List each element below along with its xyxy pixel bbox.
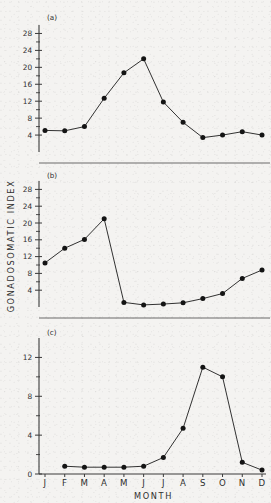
x-axis-title: MONTH xyxy=(134,491,173,501)
data-point-a-10 xyxy=(240,129,245,134)
y-tick-label-c-0: 0 xyxy=(28,470,33,479)
data-point-c-0 xyxy=(62,464,67,469)
figure-gonadosomatic-index: 481216202428(a)481216202428(b)04812JFMAM… xyxy=(0,0,271,503)
data-point-c-9 xyxy=(240,460,245,465)
data-point-a-1 xyxy=(62,128,67,133)
x-tick-label-0: J xyxy=(43,478,47,488)
data-point-c-6 xyxy=(181,426,186,431)
data-point-c-5 xyxy=(161,455,166,460)
x-tick-label-6: J xyxy=(161,478,165,488)
y-tick-label-a-12: 12 xyxy=(23,97,33,106)
data-point-a-4 xyxy=(121,70,126,75)
data-point-b-2 xyxy=(82,237,87,242)
panel-b: 481216202428(b) xyxy=(23,171,270,318)
data-point-b-3 xyxy=(102,216,107,221)
y-tick-label-b-24: 24 xyxy=(23,202,33,211)
data-point-a-3 xyxy=(102,96,107,101)
x-tick-label-2: M xyxy=(81,478,89,488)
data-point-b-0 xyxy=(43,260,48,265)
data-point-b-1 xyxy=(62,246,67,251)
y-tick-label-a-28: 28 xyxy=(23,29,33,38)
y-tick-label-b-16: 16 xyxy=(23,235,33,244)
x-tick-label-4: M xyxy=(120,478,128,488)
x-tick-label-10: N xyxy=(239,478,246,488)
data-line-c xyxy=(65,367,262,470)
x-tick-label-3: A xyxy=(101,478,107,488)
y-tick-label-b-8: 8 xyxy=(28,269,33,278)
data-point-a-9 xyxy=(220,133,225,138)
data-point-b-8 xyxy=(200,296,205,301)
y-tick-label-c-4: 4 xyxy=(28,431,33,440)
panel-a: 481216202428(a) xyxy=(23,13,270,163)
data-point-b-11 xyxy=(260,268,265,273)
y-axis-title: GONADOSOMATIC INDEX xyxy=(6,180,16,313)
data-point-b-10 xyxy=(240,276,245,281)
data-line-b xyxy=(45,219,262,305)
x-tick-label-8: S xyxy=(200,478,206,488)
data-point-b-6 xyxy=(161,302,166,307)
x-tick-label-9: O xyxy=(219,478,226,488)
data-point-a-11 xyxy=(260,133,265,138)
data-point-c-1 xyxy=(82,465,87,470)
data-point-a-6 xyxy=(161,100,166,105)
y-tick-label-a-16: 16 xyxy=(23,80,33,89)
data-point-c-7 xyxy=(200,365,205,370)
data-point-b-4 xyxy=(121,300,126,305)
data-point-a-8 xyxy=(200,135,205,140)
data-point-c-10 xyxy=(260,468,265,473)
y-tick-label-c-12: 12 xyxy=(23,353,33,362)
panel-label-b: (b) xyxy=(47,171,57,180)
x-tick-label-7: A xyxy=(180,478,186,488)
y-tick-label-b-20: 20 xyxy=(23,219,33,228)
y-tick-label-a-20: 20 xyxy=(23,63,33,72)
panel-label-c: (c) xyxy=(47,328,57,337)
panel-c: 04812JFMAMJJASONDMONTH(c) xyxy=(23,328,266,501)
data-point-a-5 xyxy=(141,56,146,61)
y-tick-label-a-24: 24 xyxy=(23,46,33,55)
y-tick-label-b-28: 28 xyxy=(23,185,33,194)
x-tick-label-5: J xyxy=(141,478,145,488)
panel-label-a: (a) xyxy=(47,13,57,22)
data-point-c-4 xyxy=(141,464,146,469)
data-point-c-8 xyxy=(220,374,225,379)
multi-panel-line-chart: 481216202428(a)481216202428(b)04812JFMAM… xyxy=(0,0,271,503)
x-tick-label-11: D xyxy=(258,478,265,488)
x-tick-label-1: F xyxy=(62,478,67,488)
data-line-a xyxy=(45,59,262,138)
y-tick-label-b-4: 4 xyxy=(28,286,33,295)
data-point-a-2 xyxy=(82,124,87,129)
data-point-a-7 xyxy=(181,120,186,125)
data-point-b-7 xyxy=(181,300,186,305)
data-point-c-2 xyxy=(102,465,107,470)
data-point-a-0 xyxy=(43,128,48,133)
data-point-b-9 xyxy=(220,291,225,296)
data-point-b-5 xyxy=(141,302,146,307)
y-tick-label-a-4: 4 xyxy=(28,131,33,140)
y-tick-label-b-12: 12 xyxy=(23,252,33,261)
y-tick-label-c-8: 8 xyxy=(28,392,33,401)
data-point-c-3 xyxy=(121,465,126,470)
y-tick-label-a-8: 8 xyxy=(28,114,33,123)
